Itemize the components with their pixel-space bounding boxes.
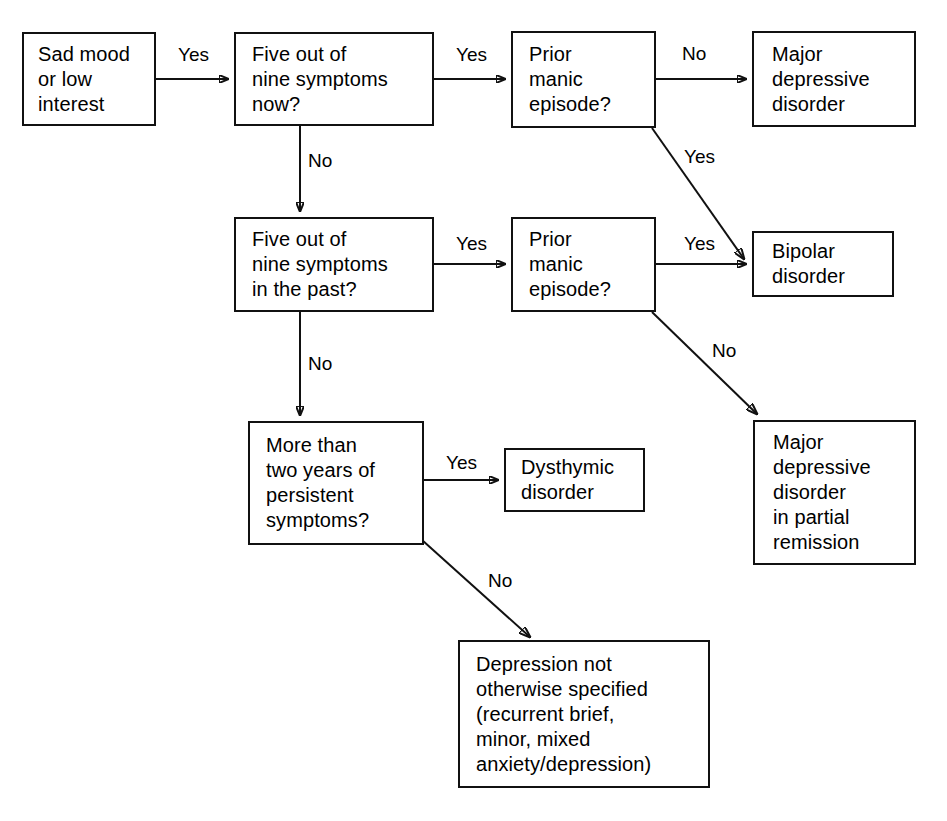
node-five_now[interactable]: Five out of nine symptoms now? xyxy=(234,32,434,126)
node-two_years[interactable]: More than two years of persistent sympto… xyxy=(248,421,424,545)
node-label-bipolar: Bipolar disorder xyxy=(754,239,845,289)
node-dysthymic[interactable]: Dysthymic disorder xyxy=(504,448,645,512)
node-label-five_now: Five out of nine symptoms now? xyxy=(236,42,388,117)
node-prior_manic_1[interactable]: Prior manic episode? xyxy=(511,31,656,128)
node-bipolar[interactable]: Bipolar disorder xyxy=(752,231,894,297)
node-sad_mood[interactable]: Sad mood or low interest xyxy=(22,32,156,126)
node-major_depressive[interactable]: Major depressive disorder xyxy=(752,31,916,127)
node-label-dysthymic: Dysthymic disorder xyxy=(506,455,614,505)
node-label-five_past: Five out of nine symptoms in the past? xyxy=(236,227,388,302)
node-prior_manic_2[interactable]: Prior manic episode? xyxy=(511,217,656,312)
node-label-prior_manic_2: Prior manic episode? xyxy=(513,227,611,302)
e-priormanic2-to-partial xyxy=(652,312,757,414)
node-five_past[interactable]: Five out of nine symptoms in the past? xyxy=(234,217,434,312)
flowchart-canvas: Sad mood or low interestFive out of nine… xyxy=(0,0,947,821)
edge-label-lbl_yes_5: Yes xyxy=(684,233,715,254)
edge-label-lbl_yes_4: Yes xyxy=(456,233,487,254)
node-label-sad_mood: Sad mood or low interest xyxy=(24,42,130,117)
edge-label-lbl_yes_2: Yes xyxy=(456,44,487,65)
node-depression_nos[interactable]: Depression not otherwise specified (recu… xyxy=(458,640,710,788)
e-twoyears-to-nos xyxy=(422,540,530,637)
edge-label-lbl_yes_6: Yes xyxy=(446,452,477,473)
node-partial_remission[interactable]: Major depressive disorder in partial rem… xyxy=(753,420,916,565)
edge-label-lbl_no_2: No xyxy=(308,150,332,171)
node-label-depression_nos: Depression not otherwise specified (recu… xyxy=(460,652,651,777)
node-label-prior_manic_1: Prior manic episode? xyxy=(513,42,611,117)
node-label-partial_remission: Major depressive disorder in partial rem… xyxy=(755,430,871,555)
edge-label-lbl_no_5: No xyxy=(488,570,512,591)
edge-label-lbl_no_3: No xyxy=(308,353,332,374)
node-label-two_years: More than two years of persistent sympto… xyxy=(250,433,375,533)
edge-label-lbl_no_1: No xyxy=(682,43,706,64)
node-label-major_depressive: Major depressive disorder xyxy=(754,42,870,117)
edge-label-lbl_no_4: No xyxy=(712,340,736,361)
edge-label-lbl_yes_1: Yes xyxy=(178,44,209,65)
edge-label-lbl_yes_3: Yes xyxy=(684,146,715,167)
